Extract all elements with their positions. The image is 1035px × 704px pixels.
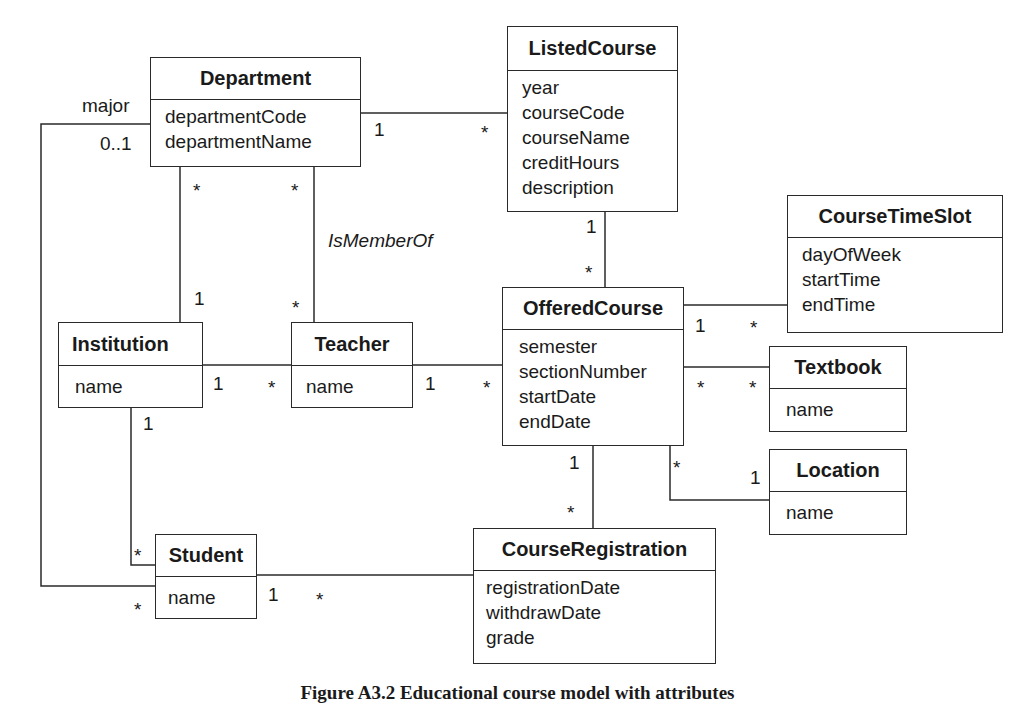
multiplicity-label: 1 — [374, 120, 385, 139]
multiplicity-label: 1 — [569, 453, 580, 472]
class-attributes: name — [59, 366, 202, 399]
class-name: Institution — [59, 323, 202, 366]
attribute: name — [786, 397, 906, 422]
attribute: description — [522, 175, 677, 200]
class-department: Department departmentCode departmentName — [150, 57, 361, 167]
class-name: Student — [156, 535, 256, 577]
class-location: Location name — [769, 449, 907, 535]
multiplicity-label: * — [749, 378, 756, 397]
class-institution: Institution name — [58, 322, 203, 408]
class-attributes: name — [770, 389, 906, 422]
class-name: CourseTimeSlot — [788, 196, 1002, 238]
class-name: ListedCourse — [508, 27, 677, 71]
attribute: dayOfWeek — [802, 242, 1002, 267]
class-name: Department — [151, 58, 360, 100]
multiplicity-label: * — [134, 600, 141, 619]
attribute: name — [75, 374, 202, 399]
class-attributes: name — [156, 577, 256, 610]
attribute: departmentName — [165, 129, 360, 154]
class-name: Location — [770, 450, 906, 492]
class-attributes: semester sectionNumber startDate endDate — [503, 330, 683, 434]
attribute: endDate — [519, 409, 683, 434]
class-name: Textbook — [770, 347, 906, 389]
attribute: name — [306, 374, 412, 399]
attribute: year — [522, 75, 677, 100]
multiplicity-label: * — [567, 503, 574, 522]
class-student: Student name — [155, 534, 257, 619]
attribute: withdrawDate — [486, 600, 715, 625]
class-offeredcourse: OfferedCourse semester sectionNumber sta… — [502, 287, 684, 446]
multiplicity-label: * — [697, 378, 704, 397]
multiplicity-label: 1 — [213, 374, 224, 393]
multiplicity-label: * — [134, 546, 141, 565]
multiplicity-label: * — [750, 318, 757, 337]
class-courseregistration: CourseRegistration registrationDate with… — [473, 528, 716, 664]
multiplicity-label: * — [316, 590, 323, 609]
role-label-major: major — [82, 96, 130, 115]
attribute: endTime — [802, 292, 1002, 317]
attribute: semester — [519, 334, 683, 359]
class-name: OfferedCourse — [503, 288, 683, 330]
attribute: sectionNumber — [519, 359, 683, 384]
class-attributes: name — [292, 366, 412, 399]
attribute: grade — [486, 625, 715, 650]
attribute: courseName — [522, 125, 677, 150]
attribute: name — [786, 500, 906, 525]
multiplicity-label: 1 — [750, 468, 761, 487]
multiplicity-label: * — [483, 378, 490, 397]
multiplicity-label: 1 — [425, 374, 436, 393]
multiplicity-label: * — [585, 263, 592, 282]
attribute: name — [168, 585, 256, 610]
multiplicity-label: * — [268, 378, 275, 397]
attribute: courseCode — [522, 100, 677, 125]
multiplicity-label: * — [291, 181, 298, 200]
multiplicity-label: 1 — [586, 217, 597, 236]
class-attributes: dayOfWeek startTime endTime — [788, 238, 1002, 317]
multiplicity-label: 1 — [194, 289, 205, 308]
multiplicity-label: 1 — [143, 414, 154, 433]
multiplicity-label: * — [673, 458, 680, 477]
attribute: registrationDate — [486, 575, 715, 600]
attribute: departmentCode — [165, 104, 360, 129]
class-teacher: Teacher name — [291, 322, 413, 408]
class-name: Teacher — [292, 323, 412, 366]
class-attributes: registrationDate withdrawDate grade — [474, 571, 715, 650]
class-name: CourseRegistration — [474, 529, 715, 571]
attribute: startTime — [802, 267, 1002, 292]
figure-caption: Figure A3.2 Educational course model wit… — [0, 682, 1035, 704]
multiplicity-label: 1 — [268, 585, 279, 604]
class-attributes: year courseCode courseName creditHours d… — [508, 71, 677, 200]
multiplicity-label: * — [193, 181, 200, 200]
class-attributes: departmentCode departmentName — [151, 100, 360, 154]
multiplicity-label: 1 — [695, 316, 706, 335]
class-coursetimeslot: CourseTimeSlot dayOfWeek startTime endTi… — [787, 195, 1003, 333]
attribute: creditHours — [522, 150, 677, 175]
class-attributes: name — [770, 492, 906, 525]
multiplicity-label: 0..1 — [100, 134, 132, 153]
class-textbook: Textbook name — [769, 346, 907, 432]
class-listedcourse: ListedCourse year courseCode courseName … — [507, 26, 678, 212]
association-name-ismemberof: IsMemberOf — [328, 230, 433, 252]
attribute: startDate — [519, 384, 683, 409]
multiplicity-label: * — [292, 298, 299, 317]
multiplicity-label: * — [481, 123, 488, 142]
